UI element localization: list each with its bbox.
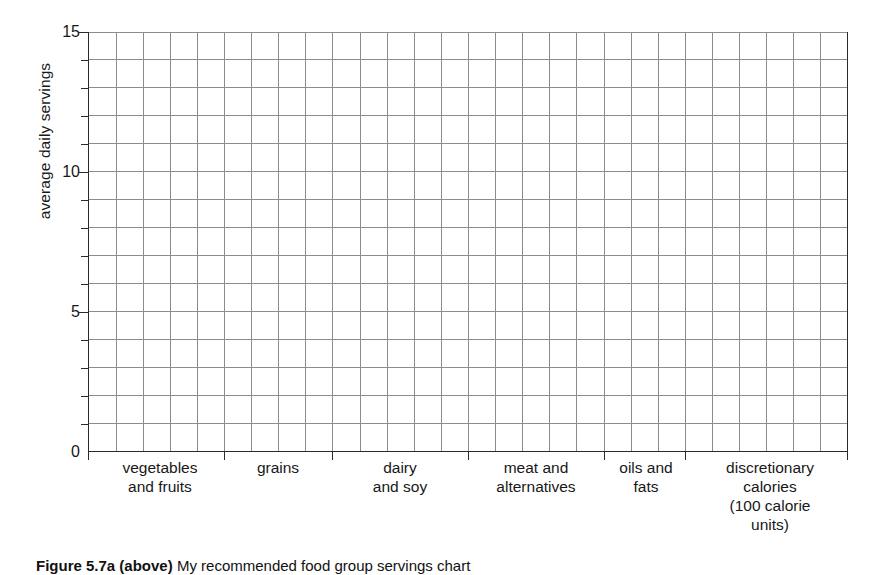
plot-area (88, 32, 848, 452)
x-category-line: grains (224, 458, 332, 477)
grid-lines (89, 32, 848, 451)
x-category-line: and fruits (96, 477, 224, 496)
x-category-line: oils and (600, 458, 692, 477)
x-category-vegetables-and-fruits: vegetables and fruits (96, 458, 224, 496)
x-category-line: units) (692, 515, 848, 534)
x-category-line: calories (692, 477, 848, 496)
x-axis-category-labels: vegetables and fruits grains dairy and s… (88, 458, 848, 558)
x-category-line: and soy (332, 477, 468, 496)
figure-caption-body: My recommended food group servings chart (177, 557, 470, 574)
x-category-discretionary-calories: discretionary calories (100 calorie unit… (692, 458, 848, 534)
x-category-dairy-and-soy: dairy and soy (332, 458, 468, 496)
x-category-grains: grains (224, 458, 332, 477)
y-tick-label-15: 15 (40, 24, 80, 40)
x-category-line: alternatives (468, 477, 604, 496)
figure-caption: Figure 5.7a (above) My recommended food … (36, 556, 856, 575)
x-category-meat-and-alternatives: meat and alternatives (468, 458, 604, 496)
x-category-line: fats (600, 477, 692, 496)
x-category-line: (100 calorie (692, 496, 848, 515)
x-category-line: dairy (332, 458, 468, 477)
figure-caption-label: Figure 5.7a (above) (36, 557, 173, 574)
x-category-line: meat and (468, 458, 604, 477)
x-category-oils-and-fats: oils and fats (600, 458, 692, 496)
y-tick-label-0: 0 (40, 444, 80, 460)
y-tick-label-10: 10 (40, 164, 80, 180)
x-category-line: vegetables (96, 458, 224, 477)
y-tick-label-5: 5 (40, 304, 80, 320)
x-category-line: discretionary (692, 458, 848, 477)
y-axis-tick-label-group: 15 10 5 0 (38, 0, 80, 573)
